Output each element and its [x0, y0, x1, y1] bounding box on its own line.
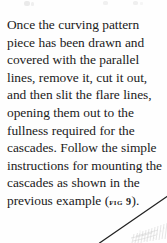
- ghost-mark: [24, 1, 30, 6]
- paragraph-text: Once the curving pattern piece has been …: [7, 17, 162, 208]
- cropped-text-remnant: [0, 0, 167, 13]
- hatching-stipple: [138, 228, 165, 241]
- body-paragraph: Once the curving pattern piece has been …: [7, 16, 163, 211]
- scanned-page: Once the curving pattern piece has been …: [0, 0, 167, 243]
- ghost-mark: [140, 2, 143, 5]
- ghost-mark: [103, 1, 108, 5]
- figure-reference: FIG 9: [109, 196, 131, 207]
- ghost-mark: [31, 2, 34, 6]
- sentence-period: .: [136, 193, 139, 208]
- ghost-mark: [133, 1, 138, 5]
- hatching-texture: [131, 223, 167, 243]
